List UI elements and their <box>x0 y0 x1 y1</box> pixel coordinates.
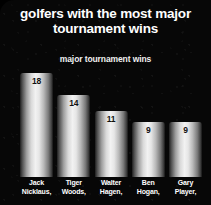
title-block: golfers with the most major tournament w… <box>0 7 211 36</box>
bar-value-label: 18 <box>20 76 53 86</box>
bar-value-label: 14 <box>57 98 90 108</box>
bar-slot-3: 11 <box>95 72 128 177</box>
category-label-line-2: Hagen, <box>94 188 129 197</box>
bar-value-label: 11 <box>95 114 128 124</box>
bar-value-label: 9 <box>169 125 202 135</box>
category-label-jack-nicklaus: Jack Nicklaus, <box>19 179 54 196</box>
bar-slot-2: 14 <box>57 72 90 177</box>
category-label-line-2: Hogan, <box>131 188 166 197</box>
category-label-line-2: Woods, <box>56 188 91 197</box>
chart-title-line-1: golfers with the most major <box>0 7 211 22</box>
category-axis-labels: Jack Nicklaus, Tiger Woods, Walter Hagen… <box>20 179 202 196</box>
category-label-ben-hogan: Ben Hogan, <box>131 179 166 196</box>
chart-subtitle: major tournament wins <box>0 54 211 64</box>
chart-title-line-2: tournament wins <box>0 22 211 37</box>
category-label-line-2: Nicklaus, <box>19 188 54 197</box>
bar-slot-5: 9 <box>169 72 202 177</box>
category-label-line-2: Player, <box>168 188 203 197</box>
bar-jack-nicklaus[interactable]: 18 <box>20 73 53 177</box>
golf-majors-infographic: golfers with the most major tournament w… <box>0 0 211 205</box>
category-label-line-1: Tiger <box>56 179 91 188</box>
category-label-line-1: Ben <box>131 179 166 188</box>
bar-gary-player[interactable]: 9 <box>169 122 202 177</box>
category-label-line-1: Jack <box>19 179 54 188</box>
bar-slot-1: 18 <box>20 72 53 177</box>
category-label-line-1: Walter <box>94 179 129 188</box>
category-label-walter-hagen: Walter Hagen, <box>94 179 129 196</box>
category-label-line-1: Gary <box>168 179 203 188</box>
bar-ben-hogan[interactable]: 9 <box>132 122 165 177</box>
bar-walter-hagen[interactable]: 11 <box>95 111 128 177</box>
category-label-gary-player: Gary Player, <box>168 179 203 196</box>
bar-value-label: 9 <box>132 125 165 135</box>
bar-tiger-woods[interactable]: 14 <box>57 95 90 177</box>
category-label-tiger-woods: Tiger Woods, <box>56 179 91 196</box>
bar-chart-plot-area: 18 14 11 9 9 <box>20 72 202 177</box>
bar-slot-4: 9 <box>132 72 165 177</box>
